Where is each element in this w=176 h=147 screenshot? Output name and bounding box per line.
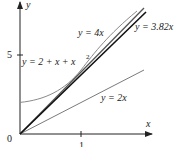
origin-label: 0	[7, 133, 12, 144]
label-3-82x: y = 3.82x	[134, 21, 174, 32]
label-quadratic: y = 2 + x + x	[21, 56, 76, 67]
label-quadratic-sup: 2	[86, 53, 90, 61]
x-tick-label-1: 1	[79, 140, 84, 147]
chart: y x 0 1 5 y = 4x y = 3.82x y = 2 + x + x…	[0, 0, 176, 147]
y-axis-label: y	[25, 0, 31, 10]
label-2x: y = 2x	[100, 92, 127, 103]
y-tick-label-5: 5	[7, 49, 12, 60]
label-4x: y = 4x	[77, 27, 104, 38]
x-axis-label: x	[145, 118, 151, 129]
